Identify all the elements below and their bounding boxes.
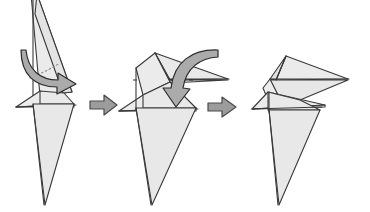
origami-diagram-canvas bbox=[0, 0, 370, 212]
origami-diagram: Origami folding sequence - three steps F… bbox=[0, 0, 370, 212]
